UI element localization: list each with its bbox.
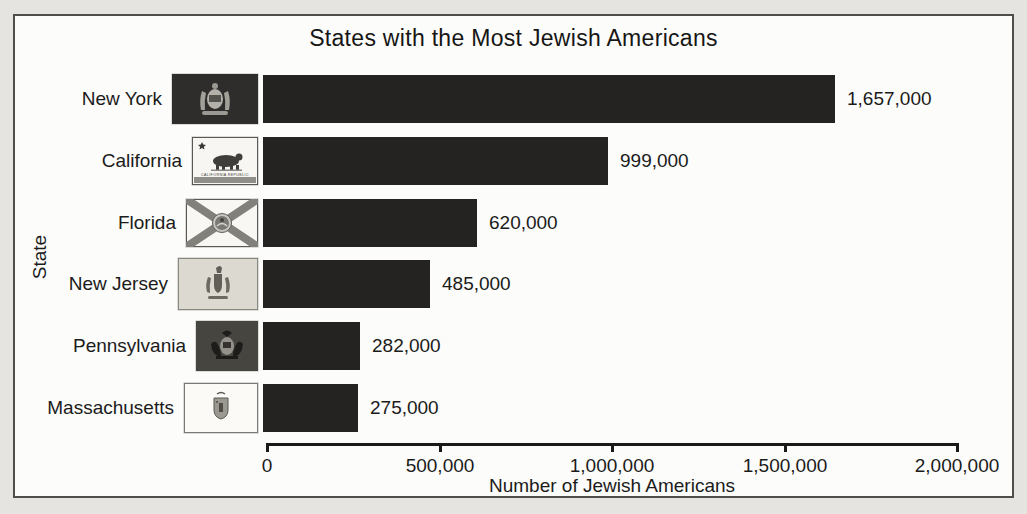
- x-axis-tick-label: 1,500,000: [743, 455, 828, 477]
- bar: [263, 199, 477, 247]
- florida-flag: [186, 199, 258, 247]
- bar: [263, 384, 358, 432]
- x-axis-tick: [956, 443, 959, 452]
- state-label: Massachusetts: [20, 384, 174, 432]
- x-axis-tick: [266, 443, 269, 452]
- x-axis-tick-label: 2,000,000: [915, 455, 1000, 477]
- svg-text:CALIFORNIA REPUBLIC: CALIFORNIA REPUBLIC: [201, 173, 249, 177]
- y-axis-title: State: [29, 235, 51, 279]
- bar: [263, 260, 430, 308]
- chart-title: States with the Most Jewish Americans: [0, 25, 1027, 52]
- x-axis-tick: [784, 443, 787, 452]
- state-label: New York: [20, 75, 162, 123]
- state-label: Pennsylvania: [20, 322, 186, 370]
- bar-value-label: 275,000: [370, 384, 439, 432]
- bar-value-label: 620,000: [489, 199, 558, 247]
- bar-value-label: 999,000: [620, 137, 689, 185]
- state-label: California: [20, 137, 182, 185]
- bar: [263, 322, 360, 370]
- bar-value-label: 282,000: [372, 322, 441, 370]
- california-flag: CALIFORNIA REPUBLIC: [192, 137, 258, 185]
- x-axis-tick-label: 1,000,000: [570, 455, 655, 477]
- x-axis-tick-label: 0: [262, 455, 273, 477]
- x-axis-tick-label: 500,000: [406, 455, 475, 477]
- pennsylvania-flag: [196, 321, 258, 371]
- figure-page: States with the Most Jewish Americans Ne…: [0, 0, 1027, 514]
- bar: [263, 137, 608, 185]
- new-jersey-flag: [178, 258, 258, 310]
- new-york-flag: [172, 74, 258, 124]
- x-axis-title: Number of Jewish Americans: [489, 475, 735, 497]
- bar-value-label: 485,000: [442, 260, 511, 308]
- bar-value-label: 1,657,000: [847, 75, 932, 123]
- bar: [263, 75, 835, 123]
- massachusetts-flag: [184, 383, 258, 433]
- x-axis-tick: [611, 443, 614, 452]
- x-axis-tick: [439, 443, 442, 452]
